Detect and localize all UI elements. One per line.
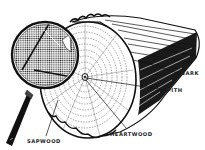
log-diagram: BARK PITH HEARTWOOD SAPWOOD xyxy=(0,0,205,150)
label-heartwood: HEARTWOOD xyxy=(110,132,153,137)
label-pith: PITH xyxy=(167,88,183,93)
label-sapwood: SAPWOOD xyxy=(27,139,61,144)
log-illustration xyxy=(0,0,205,150)
label-bark: BARK xyxy=(181,71,199,76)
